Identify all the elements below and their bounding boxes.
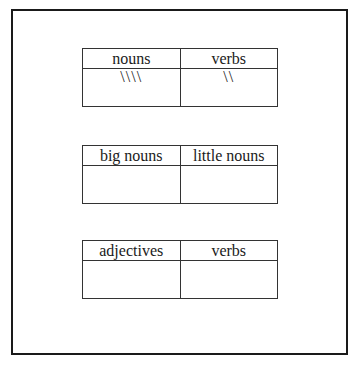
tally-nouns: \\\\ [83, 69, 181, 107]
header-verbs: verbs [180, 49, 278, 69]
tally-verbs-2 [180, 261, 278, 299]
tally-big-nouns [83, 166, 181, 204]
tally-little-nouns [180, 166, 278, 204]
tally-table-nouns-verbs: nouns verbs \\\\ \\ [82, 48, 278, 107]
header-adjectives: adjectives [83, 241, 181, 261]
header-big-nouns: big nouns [83, 146, 181, 166]
tally-adjectives [83, 261, 181, 299]
header-verbs-2: verbs [180, 241, 278, 261]
tally-table-adjectives-verbs: adjectives verbs [82, 240, 278, 299]
tally-table-big-little-nouns: big nouns little nouns [82, 145, 278, 204]
header-little-nouns: little nouns [180, 146, 278, 166]
tally-verbs: \\ [180, 69, 278, 107]
header-nouns: nouns [83, 49, 181, 69]
